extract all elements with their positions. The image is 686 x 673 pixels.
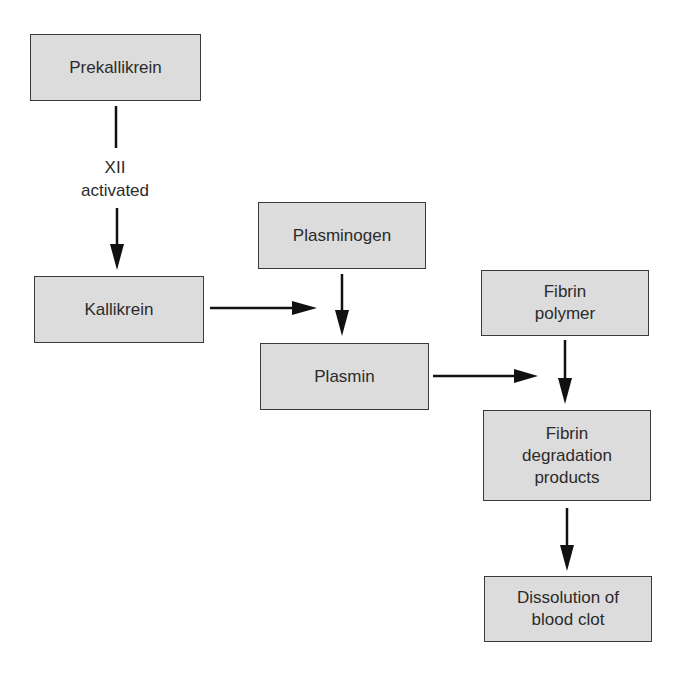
arrowhead-icon bbox=[292, 301, 317, 315]
node-fibrin-degradation-label: Fibrin degradation products bbox=[522, 423, 612, 489]
arrowhead-icon bbox=[558, 378, 572, 404]
node-dissolution-of-blood-clot: Dissolution of blood clot bbox=[484, 576, 652, 642]
node-plasminogen: Plasminogen bbox=[258, 202, 426, 269]
node-fibrin-polymer-label: Fibrin polymer bbox=[535, 281, 595, 325]
arrowhead-icon bbox=[335, 310, 349, 336]
node-prekallikrein: Prekallikrein bbox=[30, 34, 201, 101]
node-plasmin: Plasmin bbox=[260, 343, 429, 410]
node-prekallikrein-label: Prekallikrein bbox=[69, 57, 162, 79]
edge-label-xii-activated: XII activated bbox=[60, 156, 170, 202]
node-dissolution-label: Dissolution of blood clot bbox=[517, 587, 619, 631]
node-kallikrein: Kallikrein bbox=[34, 276, 204, 343]
arrowhead-icon bbox=[514, 369, 538, 383]
node-kallikrein-label: Kallikrein bbox=[85, 299, 154, 321]
arrowhead-icon bbox=[560, 545, 574, 571]
node-fibrin-degradation-products: Fibrin degradation products bbox=[483, 410, 651, 501]
node-plasminogen-label: Plasminogen bbox=[293, 225, 391, 247]
arrowhead-icon bbox=[110, 244, 124, 270]
node-plasmin-label: Plasmin bbox=[314, 366, 374, 388]
node-fibrin-polymer: Fibrin polymer bbox=[481, 270, 649, 336]
